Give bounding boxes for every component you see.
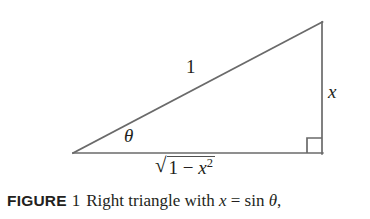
radicand-exponent: 2	[207, 156, 213, 170]
radicand-x: x	[198, 157, 206, 178]
radical-sign-icon: √	[155, 155, 167, 176]
figure-container: 1 x θ √1 − x2 FIGURE1Right triangle with…	[0, 0, 370, 219]
caption-text-before: Right triangle with	[86, 191, 219, 210]
angle-theta-label: θ	[124, 126, 133, 145]
caption-number: 1	[72, 191, 81, 210]
caption-variable: x	[219, 191, 227, 210]
adjacent-side-label: √1 − x2	[155, 156, 215, 177]
radicand-expression: 1 − x2	[167, 156, 215, 177]
caption-angle: θ	[269, 191, 277, 210]
hypotenuse-length-label: 1	[186, 57, 196, 76]
triangle-side-hypotenuse	[73, 22, 323, 153]
caption-label: FIGURE	[7, 192, 67, 209]
radicand-base: 1 − x	[169, 157, 207, 178]
caption-trailing: ,	[277, 191, 281, 210]
triangle-outline	[73, 22, 323, 154]
radicand-one: 1 −	[169, 157, 199, 178]
figure-caption: FIGURE1Right triangle with x = sin θ,	[7, 190, 367, 211]
opposite-side-label: x	[328, 82, 336, 101]
caption-equals: =	[227, 191, 245, 210]
caption-text: Right triangle with x = sin θ,	[86, 191, 281, 210]
caption-function: sin	[245, 191, 269, 210]
right-angle-marker-icon	[307, 138, 322, 153]
